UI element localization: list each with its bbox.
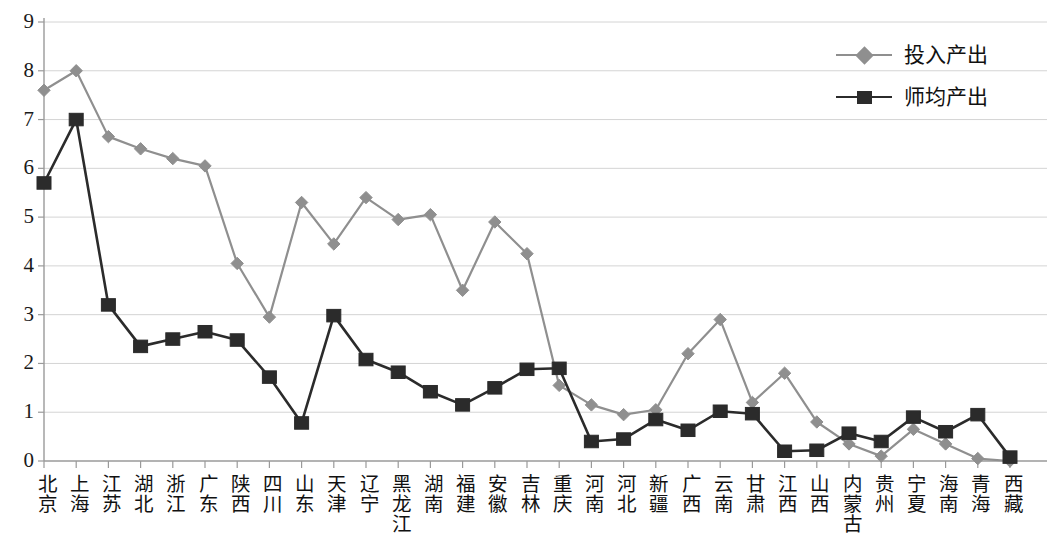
x-axis-tick-label: 西藏 — [999, 474, 1021, 514]
x-axis-tick-label: 宁夏 — [902, 474, 924, 514]
legend-item-input-output[interactable]: 投入产出 — [836, 34, 1046, 76]
x-axis-tick-label: 福建 — [452, 474, 474, 514]
x-axis-tick-label: 山西 — [806, 474, 828, 514]
x-axis-tick-label: 吉林 — [516, 474, 538, 514]
chart-container: 9876543210 北京上海江苏湖北浙江广东陕西四川山东天津辽宁黑龙江湖南福建… — [0, 0, 1052, 548]
x-axis-tick-label: 江苏 — [97, 474, 119, 514]
legend-swatch-square — [836, 86, 892, 108]
x-axis-tick-label: 上海 — [65, 474, 87, 514]
x-axis-tick-label: 江西 — [774, 474, 796, 514]
x-axis-tick-label: 陕西 — [226, 474, 248, 514]
x-axis-tick-label: 山东 — [291, 474, 313, 514]
x-axis-tick-label: 黑龙江 — [387, 474, 409, 534]
x-axis-tick-label: 湖南 — [419, 474, 441, 514]
x-axis-tick-label: 河南 — [580, 474, 602, 514]
x-axis-tick-label: 内蒙古 — [838, 474, 860, 534]
x-axis-tick-label: 广西 — [677, 474, 699, 514]
x-axis-tick-label: 海南 — [935, 474, 957, 514]
chart-legend: 投入产出 师均产出 — [836, 34, 1046, 118]
x-axis-tick-label: 天津 — [323, 474, 345, 514]
x-axis-tick-label: 浙江 — [162, 474, 184, 514]
x-axis-tick-label: 甘肃 — [741, 474, 763, 514]
x-axis-tick-label: 贵州 — [870, 474, 892, 514]
x-axis-tick-label: 新疆 — [645, 474, 667, 514]
legend-label-input-output: 投入产出 — [904, 45, 988, 66]
x-axis-tick-label: 辽宁 — [355, 474, 377, 514]
x-axis-tick-label: 河北 — [613, 474, 635, 514]
square-marker-icon — [857, 91, 872, 104]
x-axis-tick-label: 湖北 — [130, 474, 152, 514]
legend-swatch-diamond — [836, 44, 892, 66]
x-axis-tick-label: 北京 — [33, 474, 55, 514]
legend-label-per-teacher: 师均产出 — [904, 87, 988, 108]
diamond-marker-icon — [855, 46, 873, 64]
x-axis-tick-label: 安徽 — [484, 474, 506, 514]
x-axis-tick-label: 四川 — [258, 474, 280, 514]
legend-item-per-teacher[interactable]: 师均产出 — [836, 76, 1046, 118]
x-axis-tick-label: 青海 — [967, 474, 989, 514]
x-axis-tick-label: 云南 — [709, 474, 731, 514]
x-axis-tick-label: 广东 — [194, 474, 216, 514]
x-axis-tick-label: 重庆 — [548, 474, 570, 514]
